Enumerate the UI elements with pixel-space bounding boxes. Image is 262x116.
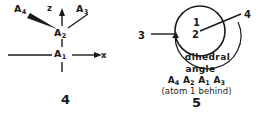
caption-dihedral: dihedral: [131, 53, 262, 62]
atom-label-a4: A4: [14, 4, 26, 14]
figure-number-right: 5: [131, 96, 262, 109]
bond-a2-a4-wedge: [27, 13, 57, 29]
substituent-label-3: 3: [138, 31, 145, 41]
axis-label-x: x: [101, 51, 106, 60]
formula-atom-3: A1: [198, 75, 210, 85]
atom-label-a2: A2: [54, 28, 66, 38]
formula-atom-1: A4: [168, 75, 180, 85]
z-axis-arrowhead: [59, 8, 65, 16]
newman-front-atom-label: 1: [193, 18, 200, 28]
substituent-label-4: 4: [244, 10, 251, 20]
atom-label-a3: A3: [76, 4, 88, 14]
bond-a2-a3: [68, 14, 88, 28]
right-figure-panel: 3 4 1 2 dihedral angle A4 A2 A1 A3 (atom…: [131, 0, 262, 116]
formula-atom-2: A2: [183, 75, 195, 85]
left-figure-panel: A4 A3 A2 A1 z x 4: [0, 0, 131, 116]
figure-screenshot: A4 A3 A2 A1 z x 4 3 4 1 2 dihedral angle…: [0, 0, 262, 116]
caption-angle: angle: [131, 65, 262, 74]
dihedral-arc-arrowhead: [172, 32, 179, 38]
figure-number-left: 4: [0, 93, 131, 106]
atom-label-a1: A1: [54, 49, 66, 59]
axis-label-z: z: [47, 4, 52, 13]
caption-atom-sequence: A4 A2 A1 A3: [131, 76, 262, 85]
formula-atom-4: A3: [213, 75, 225, 85]
newman-back-atom-label: 2: [192, 30, 199, 40]
